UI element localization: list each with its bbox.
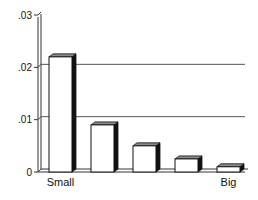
bars bbox=[49, 54, 244, 172]
x-label-small: Small bbox=[47, 176, 75, 188]
bar bbox=[91, 122, 118, 172]
bar-chart: 0.01.02.03SmallBig bbox=[0, 0, 258, 200]
y-tick-label: .03 bbox=[18, 10, 32, 21]
bar bbox=[49, 54, 76, 172]
bar bbox=[217, 164, 244, 172]
y-tick-label: .02 bbox=[18, 62, 32, 73]
y-tick-label: .01 bbox=[18, 114, 32, 125]
x-label-big: Big bbox=[221, 176, 237, 188]
y-tick-label: 0 bbox=[26, 167, 32, 178]
bar bbox=[175, 156, 202, 172]
bar bbox=[133, 143, 160, 172]
